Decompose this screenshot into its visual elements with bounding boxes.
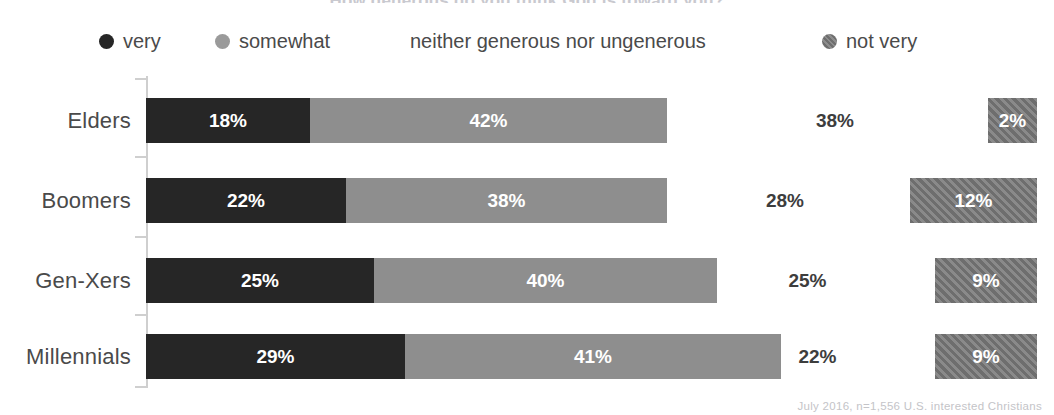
- y-axis-tick: [135, 386, 146, 388]
- legend-label-neither: neither generous nor ungenerous: [410, 30, 706, 53]
- bar-segment-neither[interactable]: 28%: [660, 178, 910, 223]
- bar-segment-somewhat[interactable]: 42%: [310, 98, 667, 143]
- chart-footnote: July 2016, n=1,556 U.S. interested Chris…: [797, 400, 1042, 412]
- bar-segment-neither[interactable]: 25%: [680, 258, 935, 303]
- legend-label-very: very: [123, 30, 161, 53]
- legend-item-somewhat[interactable]: somewhat: [215, 27, 330, 55]
- bar-segment-not-very[interactable]: 12%: [910, 178, 1037, 223]
- bar-segment-neither[interactable]: 22%: [700, 334, 935, 379]
- legend-item-not-very[interactable]: not very: [822, 27, 917, 55]
- bar-segment-not-very[interactable]: 2%: [988, 98, 1037, 143]
- y-axis-tick: [135, 156, 146, 158]
- y-axis-tick: [135, 78, 146, 80]
- legend-dot-very: [99, 34, 114, 49]
- bar-segment-somewhat[interactable]: 40%: [374, 258, 717, 303]
- legend-dot-not-very: [822, 34, 837, 49]
- legend-item-very[interactable]: very: [99, 27, 161, 55]
- bar-segment-neither[interactable]: 38%: [690, 98, 980, 143]
- bar-segment-very[interactable]: 18%: [146, 98, 310, 143]
- chart-legend: very somewhat neither generous nor ungen…: [0, 27, 1054, 55]
- legend-label-somewhat: somewhat: [239, 30, 330, 53]
- bar-segment-very[interactable]: 29%: [146, 334, 405, 379]
- category-label-gen-xers: Gen-Xers: [0, 258, 131, 303]
- bar-row: Millennials29%41%22%9%: [0, 334, 1054, 379]
- chart-plot-area: Elders18%42%38%2%Boomers22%38%28%12%Gen-…: [0, 76, 1054, 388]
- category-label-elders: Elders: [0, 98, 131, 143]
- bar-row: Gen-Xers25%40%25%9%: [0, 258, 1054, 303]
- chart-title: How generous do you think God is toward …: [0, 0, 1054, 3]
- bar-segment-very[interactable]: 25%: [146, 258, 374, 303]
- legend-item-neither[interactable]: neither generous nor ungenerous: [410, 27, 706, 55]
- bar-segment-somewhat[interactable]: 38%: [346, 178, 667, 223]
- bar-segment-very[interactable]: 22%: [146, 178, 346, 223]
- bar-row: Boomers22%38%28%12%: [0, 178, 1054, 223]
- y-axis-tick: [135, 236, 146, 238]
- bar-row: Elders18%42%38%2%: [0, 98, 1054, 143]
- legend-label-not-very: not very: [846, 30, 917, 53]
- y-axis-tick: [135, 314, 146, 316]
- category-label-boomers: Boomers: [0, 178, 131, 223]
- legend-dot-somewhat: [215, 34, 230, 49]
- bar-segment-not-very[interactable]: 9%: [935, 334, 1037, 379]
- bar-segment-not-very[interactable]: 9%: [935, 258, 1037, 303]
- category-label-millennials: Millennials: [0, 334, 131, 379]
